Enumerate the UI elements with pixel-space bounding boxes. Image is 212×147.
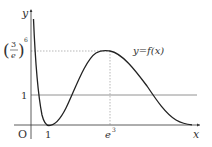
y-tick-max-value: ( 3 e ) 6	[3, 36, 28, 60]
y-axis-label: y	[21, 7, 29, 20]
svg-text:3: 3	[112, 126, 116, 133]
function-label: y=f(x)	[132, 45, 164, 56]
svg-text:(: (	[3, 40, 10, 60]
svg-text:e: e	[105, 129, 111, 140]
origin-label: O	[18, 128, 27, 141]
x-tick-e3: e 3	[105, 126, 116, 140]
x-tick-1: 1	[45, 129, 51, 140]
svg-text:3: 3	[11, 40, 16, 49]
svg-text:): )	[18, 40, 25, 60]
svg-text:6: 6	[24, 36, 28, 43]
x-axis-arrow-icon	[197, 124, 200, 127]
function-curve	[34, 19, 193, 126]
y-axis-arrow-icon	[30, 9, 33, 12]
y-tick-1: 1	[21, 90, 27, 101]
function-graph: y x O 1 e 3 1 ( 3 e ) 6 y=f(x)	[0, 0, 212, 147]
svg-text:e: e	[11, 51, 16, 60]
x-axis-label: x	[193, 128, 200, 141]
